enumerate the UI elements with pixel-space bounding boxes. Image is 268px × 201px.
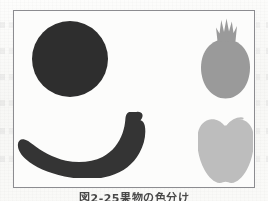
pomegranate-silhouette-icon — [199, 17, 251, 101]
caption-text: 果物の色分け — [120, 192, 189, 201]
scanned-page: 図2-25果物の色分け — [0, 0, 268, 201]
orange-silhouette-icon — [31, 20, 109, 98]
figure-canvas — [14, 11, 254, 187]
caption-number: 図2-25 — [79, 192, 120, 201]
apple-silhouette-icon — [198, 114, 253, 186]
figure-frame — [13, 10, 255, 188]
banana-silhouette-icon — [17, 110, 150, 178]
figure-caption: 図2-25果物の色分け — [0, 192, 268, 201]
